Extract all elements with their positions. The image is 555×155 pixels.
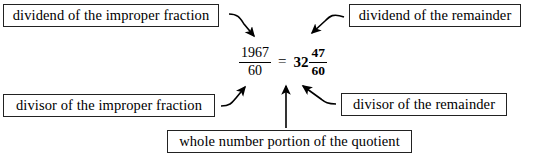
mixed-denominator: 60	[309, 64, 327, 78]
improper-denominator: 60	[246, 64, 264, 79]
diagram-canvas: dividend of the improper fraction divide…	[0, 0, 555, 155]
improper-numerator: 1967	[239, 46, 271, 61]
mixed-number: 32 47 60	[293, 46, 327, 77]
mixed-whole-number: 32	[293, 54, 309, 71]
arrow-dividend-improper	[229, 14, 254, 36]
label-text: dividend of the remainder	[359, 8, 512, 23]
label-box-divisor-of-improper-fraction: divisor of the improper fraction	[3, 94, 215, 117]
label-text: divisor of the remainder	[353, 97, 495, 112]
arrow-dividend-remainder	[312, 15, 344, 33]
equals-sign: =	[278, 53, 286, 71]
mixed-fraction-part: 47 60	[309, 46, 327, 77]
arrow-divisor-improper	[221, 87, 245, 106]
math-expression: 1967 60 = 32 47 60	[218, 40, 348, 84]
arrow-divisor-remainder	[303, 86, 336, 104]
label-text: divisor of the improper fraction	[16, 98, 202, 113]
label-box-divisor-of-remainder: divisor of the remainder	[341, 93, 507, 116]
label-text: dividend of the improper fraction	[13, 8, 210, 23]
label-box-whole-number-portion-of-quotient: whole number portion of the quotient	[167, 130, 412, 153]
label-box-dividend-of-remainder: dividend of the remainder	[349, 4, 521, 27]
improper-fraction: 1967 60	[239, 46, 271, 78]
label-text: whole number portion of the quotient	[179, 134, 400, 149]
label-box-dividend-of-improper-fraction: dividend of the improper fraction	[3, 4, 219, 27]
mixed-numerator: 47	[309, 46, 327, 60]
